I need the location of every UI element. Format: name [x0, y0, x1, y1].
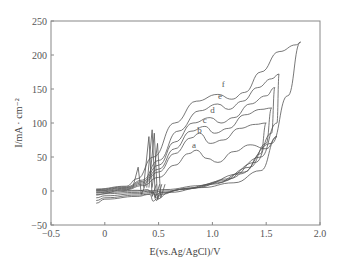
y-axis-label: I/mA · cm⁻² — [13, 98, 24, 147]
y-tick-label: −50 — [31, 220, 47, 231]
curve-label-b: b — [197, 125, 202, 135]
curve-label-c: c — [203, 115, 207, 125]
x-tick-label: 0.5 — [152, 228, 165, 239]
curve-c-cathodic — [96, 108, 271, 198]
curve-label-e: e — [218, 91, 222, 101]
y-tick-label: 100 — [32, 118, 47, 129]
curve-b-anodic — [96, 123, 266, 192]
y-tick-label: 250 — [32, 16, 47, 27]
cv-curves — [96, 42, 300, 203]
curve-label-f: f — [222, 79, 225, 89]
y-tick-label: 50 — [37, 152, 47, 163]
curve-labels: abcdef — [192, 79, 225, 150]
curve-label-d: d — [210, 105, 215, 115]
cv-chart: −0.500.51.01.52.0 −50050100150200250 abc… — [0, 0, 343, 267]
curve-d-anodic — [96, 88, 275, 191]
curve-e-anodic — [96, 74, 279, 190]
x-tick-label: 2.0 — [314, 228, 327, 239]
curve-a-anodic — [96, 137, 277, 195]
curve-label-a: a — [192, 140, 196, 150]
x-tick-label: 1.5 — [260, 228, 273, 239]
x-tick-label: 0 — [102, 228, 107, 239]
x-tick-label: 1.0 — [206, 228, 219, 239]
y-tick-label: 150 — [32, 84, 47, 95]
y-tick-label: 200 — [32, 50, 47, 61]
y-tick-label: 0 — [42, 186, 47, 197]
x-axis-label: E(vs.Ag/AgCl)/V — [150, 246, 222, 258]
